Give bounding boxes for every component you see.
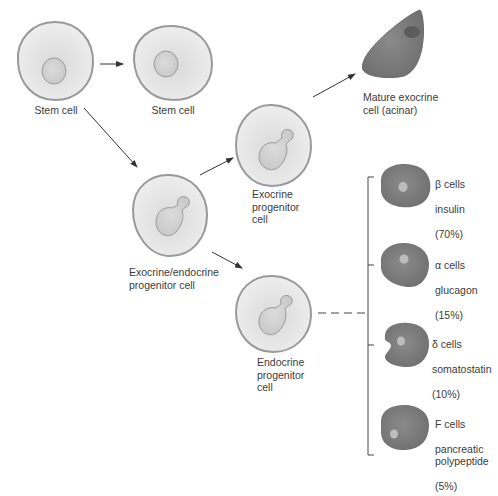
f-cell-type: F cells	[435, 418, 489, 431]
label-delta-cell: δ cells somatostatin (10%)	[432, 325, 492, 413]
beta-cell-percent: (70%)	[435, 228, 465, 241]
f-cell	[381, 405, 429, 450]
endocrine-progenitor-cell	[236, 276, 311, 352]
label-exocrine-progenitor: Exocrine progenitor cell	[252, 188, 299, 226]
mature-exocrine-cell	[363, 10, 424, 78]
exocrine-progenitor-cell	[236, 105, 311, 186]
alpha-cell	[381, 243, 429, 287]
beta-cell	[381, 164, 430, 207]
label-alpha-cell: α cells glucagon (15%)	[435, 246, 478, 334]
arrow-to-exocrine-progenitor	[200, 158, 233, 175]
delta-cell-percent: (10%)	[432, 388, 492, 401]
delta-cell-type: δ cells	[432, 338, 492, 351]
arrow-stem-to-exo-endo	[84, 108, 137, 167]
f-cell-hormone: pancreatic polypeptide	[435, 443, 489, 468]
stem-cell-2	[134, 26, 212, 100]
beta-cell-type: β cells	[435, 178, 465, 191]
label-beta-cell: β cells insulin (70%)	[435, 165, 465, 253]
label-f-cell: F cells pancreatic polypeptide (5%)	[435, 405, 489, 496]
delta-cell	[385, 323, 429, 367]
bracket	[368, 177, 374, 455]
label-mature-exocrine: Mature exocrine cell (acinar)	[363, 91, 438, 116]
stem-cell-1	[18, 22, 93, 100]
exo-endo-progenitor-cell	[133, 175, 207, 256]
label-endocrine-progenitor: Endocrine progenitor cell	[257, 356, 304, 394]
delta-cell-hormone: somatostatin	[432, 363, 492, 376]
label-exo-endo-progenitor: Exocrine/endocrine progenitor cell	[129, 266, 219, 291]
beta-cell-hormone: insulin	[435, 203, 465, 216]
alpha-cell-type: α cells	[435, 259, 478, 272]
alpha-cell-percent: (15%)	[435, 309, 478, 322]
f-cell-percent: (5%)	[435, 480, 489, 493]
arrow-to-mature-exocrine	[313, 74, 355, 97]
label-stem-cell-2: Stem cell	[134, 104, 212, 117]
label-stem-cell-1: Stem cell	[18, 104, 94, 117]
alpha-cell-hormone: glucagon	[435, 284, 478, 297]
